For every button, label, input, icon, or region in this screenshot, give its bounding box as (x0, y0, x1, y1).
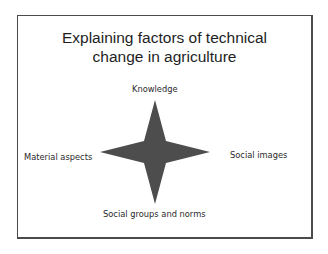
label-knowledge: Knowledge (132, 84, 178, 94)
label-material-aspects: Material aspects (24, 152, 92, 162)
label-social-groups-and-norms: Social groups and norms (103, 209, 206, 219)
label-social-images: Social images (230, 150, 287, 160)
